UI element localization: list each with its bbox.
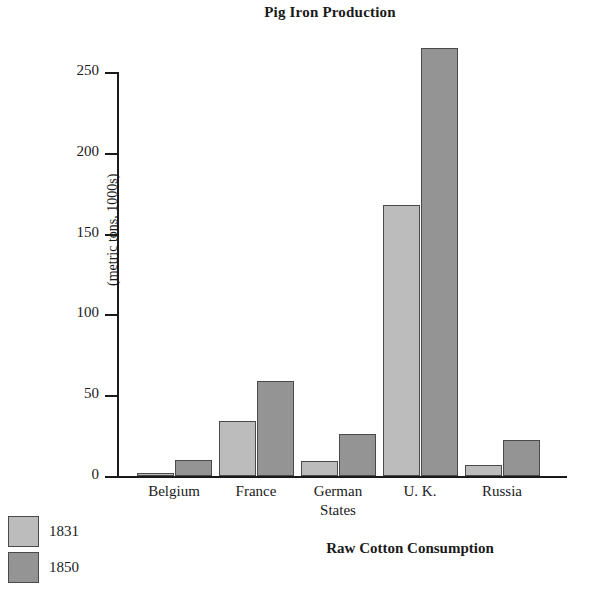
bar-1831-russia xyxy=(465,465,502,476)
y-tick-label-0: 0 xyxy=(92,466,100,483)
plot-area: (metric tons, 1000s) 050100150200250 Bel… xyxy=(117,50,567,478)
y-tick-label-50: 50 xyxy=(84,385,99,402)
y-tick-label-250: 250 xyxy=(77,62,100,79)
legend-swatch-icon-1850 xyxy=(8,552,39,583)
y-tick-200: 200 xyxy=(105,153,118,155)
legend-item-1850: 1850 xyxy=(8,549,79,585)
next-section-title: Raw Cotton Consumption xyxy=(260,540,560,557)
y-tick-label-200: 200 xyxy=(77,143,100,160)
legend-item-1831: 1831 xyxy=(8,513,79,549)
x-label-line-2: States xyxy=(278,501,398,520)
legend-swatch-icon-1831 xyxy=(8,516,39,547)
bar-1850-german-states xyxy=(339,434,376,476)
y-tick-label-100: 100 xyxy=(77,304,100,321)
y-tick-label-150: 150 xyxy=(77,224,100,241)
bar-1850-russia xyxy=(503,440,540,476)
bar-1850-u-k xyxy=(421,48,458,476)
bar-1831-u-k xyxy=(383,205,420,476)
y-tick-250: 250 xyxy=(105,72,118,74)
legend-label-1850: 1850 xyxy=(49,559,79,576)
chart-legend: 1831 1850 xyxy=(8,513,79,585)
bar-1850-france xyxy=(257,381,294,476)
y-tick-0: 0 xyxy=(105,476,118,478)
y-tick-100: 100 xyxy=(105,314,118,316)
bar-1831-belgium xyxy=(137,473,174,476)
y-tick-150: 150 xyxy=(105,234,118,236)
bar-1831-german-states xyxy=(301,461,338,476)
legend-label-1831: 1831 xyxy=(49,523,79,540)
x-label-russia: Russia xyxy=(442,482,562,501)
bar-1831-france xyxy=(219,421,256,476)
y-tick-50: 50 xyxy=(105,395,118,397)
chart-figure: Pig Iron Production (metric tons, 1000s)… xyxy=(0,0,590,605)
chart-title: Pig Iron Production xyxy=(130,4,530,21)
x-label-line-1: Russia xyxy=(442,482,562,501)
bar-1850-belgium xyxy=(175,460,212,476)
y-axis-line xyxy=(117,72,119,478)
x-axis-line xyxy=(117,476,567,478)
